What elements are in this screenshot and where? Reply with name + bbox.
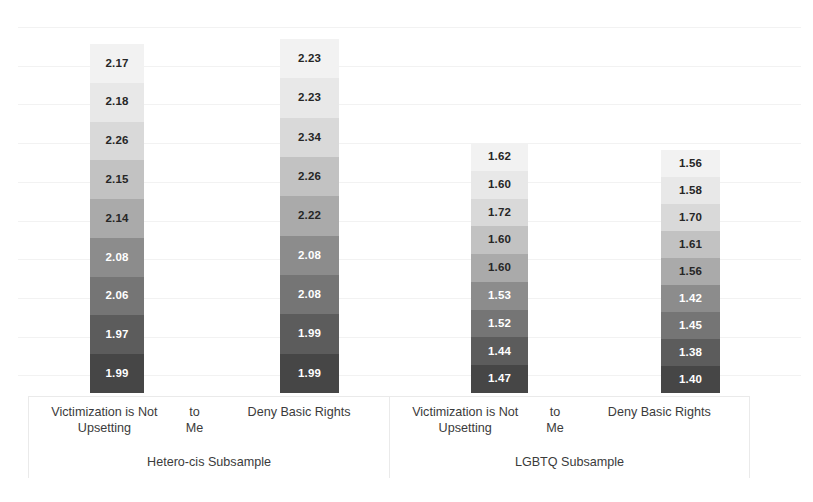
bar-segment[interactable]: 2.08	[280, 275, 339, 314]
bar-segment[interactable]: 1.70	[661, 204, 720, 231]
category-row: Victimization is Not Upsetting to Me Den…	[390, 397, 749, 445]
group-label-lgbtq: LGBTQ Subsample	[390, 445, 749, 478]
bar-segment[interactable]: 1.97	[90, 315, 144, 354]
bar-segment[interactable]: 1.53	[471, 282, 528, 310]
bar-segment[interactable]: 1.56	[661, 258, 720, 285]
bar-segment-value: 1.60	[488, 262, 511, 274]
bar-segment-value: 1.40	[679, 374, 702, 386]
bar-segment[interactable]: 1.60	[471, 226, 528, 254]
bar-segment[interactable]: 2.18	[90, 83, 144, 122]
bar-segment[interactable]: 1.99	[280, 314, 339, 353]
category-label-line1: Deny Basic Rights	[248, 404, 351, 420]
bar-segment-value: 1.38	[679, 347, 702, 359]
bar-segment-value: 2.23	[298, 53, 321, 65]
bar-segment-value: 2.06	[105, 290, 128, 302]
bar-segment[interactable]: 1.40	[661, 366, 720, 393]
bar-segment[interactable]: 1.61	[661, 231, 720, 258]
bar-segment-value: 2.17	[105, 58, 128, 70]
bar-segment-value: 1.70	[679, 212, 702, 224]
bar-segment-value: 1.45	[679, 320, 702, 332]
bar-segment-value: 1.60	[488, 179, 511, 191]
category-label-line1: Deny Basic Rights	[608, 404, 711, 420]
bar-segment[interactable]: 2.23	[280, 78, 339, 117]
category-label-line2: to Me	[540, 404, 569, 436]
group-block-hetero-cis: Victimization is Not Upsetting to Me Den…	[29, 397, 389, 478]
bar-segment-value: 2.34	[298, 132, 321, 144]
bar-segment[interactable]: 1.62	[471, 143, 528, 171]
bar-segment[interactable]: 2.26	[90, 122, 144, 161]
bar-segment-value: 1.56	[679, 266, 702, 278]
gridline	[18, 27, 801, 28]
bar-segment[interactable]: 2.06	[90, 277, 144, 316]
bar-segment[interactable]: 1.99	[90, 354, 144, 393]
category-label-hetero-deny: Deny Basic Rights	[209, 397, 389, 445]
bar-lgbtq-deny[interactable]: 1.561.581.701.611.561.421.451.381.40	[661, 150, 720, 393]
bar-segment[interactable]: 2.34	[280, 118, 339, 157]
category-label-line1: Victimization is Not Upsetting	[29, 404, 180, 436]
category-label-lgbtq-victimization: Victimization is Not Upsetting to Me	[390, 397, 570, 445]
bar-segment[interactable]: 2.15	[90, 160, 144, 199]
bar-segment[interactable]: 2.23	[280, 39, 339, 78]
bar-segment-value: 1.53	[488, 290, 511, 302]
bar-segment[interactable]: 2.26	[280, 157, 339, 196]
stacked-bar-chart: 2.172.182.262.152.142.082.061.971.992.23…	[0, 0, 813, 502]
bar-segment-value: 1.44	[488, 346, 511, 358]
bar-segment-value: 1.99	[298, 368, 321, 380]
bar-hetero-victimization[interactable]: 2.172.182.262.152.142.082.061.971.99	[90, 44, 144, 393]
bar-segment-value: 1.99	[105, 368, 128, 380]
bar-segment-value: 1.58	[679, 185, 702, 197]
category-row: Victimization is Not Upsetting to Me Den…	[29, 397, 389, 445]
bar-segment[interactable]: 1.52	[471, 310, 528, 338]
category-label-hetero-victimization: Victimization is Not Upsetting to Me	[29, 397, 209, 445]
bar-segment-value: 2.18	[105, 96, 128, 108]
bar-segment[interactable]: 1.60	[471, 171, 528, 199]
bar-segment-value: 1.97	[105, 329, 128, 341]
bar-segment-value: 2.26	[105, 135, 128, 147]
bar-segment-value: 1.99	[298, 328, 321, 340]
bar-segment[interactable]: 1.99	[280, 354, 339, 393]
axis-label-table: Victimization is Not Upsetting to Me Den…	[28, 396, 750, 478]
bar-segment[interactable]: 1.45	[661, 312, 720, 339]
bar-segment-value: 2.26	[298, 171, 321, 183]
bar-segment-value: 2.08	[105, 252, 128, 264]
bar-segment[interactable]: 1.60	[471, 254, 528, 282]
bar-segment[interactable]: 1.42	[661, 285, 720, 312]
bar-segment[interactable]: 1.38	[661, 339, 720, 366]
bar-segment[interactable]: 1.72	[471, 199, 528, 227]
bar-hetero-deny[interactable]: 2.232.232.342.262.222.082.081.991.99	[280, 39, 339, 393]
bar-segment[interactable]: 2.08	[90, 238, 144, 277]
bar-segment-value: 1.62	[488, 151, 511, 163]
bar-segment-value: 2.08	[298, 289, 321, 301]
group-label-hetero-cis: Hetero-cis Subsample	[29, 445, 389, 478]
bar-segment-value: 1.52	[488, 318, 511, 330]
bar-segment-value: 2.14	[105, 213, 128, 225]
category-label-lgbtq-deny: Deny Basic Rights	[570, 397, 750, 445]
bar-segment-value: 1.60	[488, 234, 511, 246]
bar-segment-value: 1.72	[488, 207, 511, 219]
plot-area: 2.172.182.262.152.142.082.061.971.992.23…	[0, 14, 813, 394]
bar-lgbtq-victimization[interactable]: 1.621.601.721.601.601.531.521.441.47	[471, 143, 528, 393]
bar-segment[interactable]: 1.44	[471, 337, 528, 365]
bar-segment-value: 2.23	[298, 92, 321, 104]
bar-segment[interactable]: 1.47	[471, 365, 528, 393]
bar-segment-value: 2.15	[105, 174, 128, 186]
bar-segment[interactable]: 2.22	[280, 196, 339, 235]
bar-segment[interactable]: 2.14	[90, 199, 144, 238]
bar-segment-value: 1.61	[679, 239, 702, 251]
category-label-line2: to Me	[180, 404, 209, 436]
group-block-lgbtq: Victimization is Not Upsetting to Me Den…	[389, 397, 749, 478]
bar-segment-value: 2.22	[298, 210, 321, 222]
bar-segment[interactable]: 1.56	[661, 150, 720, 177]
bar-segment[interactable]: 2.17	[90, 44, 144, 83]
bar-segment-value: 2.08	[298, 250, 321, 262]
category-label-line1: Victimization is Not Upsetting	[390, 404, 540, 436]
bar-segment-value: 1.56	[679, 158, 702, 170]
bar-segment[interactable]: 1.58	[661, 177, 720, 204]
bar-segment-value: 1.42	[679, 293, 702, 305]
bar-segment-value: 1.47	[488, 373, 511, 385]
bar-segment[interactable]: 2.08	[280, 236, 339, 275]
